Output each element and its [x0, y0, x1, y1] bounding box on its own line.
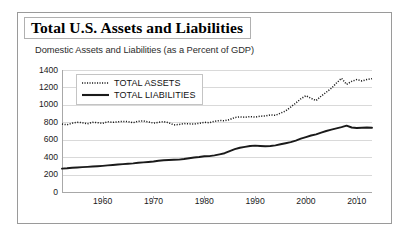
x-tick-mark: [204, 196, 205, 199]
series-line-total-liabilities: [62, 126, 372, 169]
y-tick-label: 1200: [39, 82, 58, 92]
x-tick-mark: [357, 196, 358, 199]
y-tick-label: 1400: [39, 65, 58, 75]
legend-item: TOTAL LIABILITIES: [82, 89, 196, 101]
y-axis-tick-labels: 0200400600800100012001400: [22, 70, 58, 192]
y-tick-label: 400: [44, 152, 58, 162]
y-tick-label: 800: [44, 117, 58, 127]
legend-item: TOTAL ASSETS: [82, 77, 196, 89]
y-tick-label: 200: [44, 169, 58, 179]
x-axis-tick-labels: 196019701980199020002010: [62, 196, 372, 210]
legend-label: TOTAL LIABILITIES: [114, 90, 196, 100]
x-tick-mark: [306, 196, 307, 199]
x-tick-mark: [255, 196, 256, 199]
x-tick-mark: [153, 196, 154, 199]
y-tick-label: 600: [44, 134, 58, 144]
chart-figure: Total U.S. Assets and Liabilities Domest…: [0, 0, 410, 239]
legend-swatch-solid: [82, 91, 109, 99]
chart-subtitle: Domestic Assets and Liabilities (as a Pe…: [35, 45, 254, 55]
x-axis-line: [62, 192, 372, 193]
chart-title-box: Total U.S. Assets and Liabilities: [24, 17, 251, 39]
x-tick-mark: [103, 196, 104, 199]
legend-label: TOTAL ASSETS: [114, 78, 181, 88]
legend-swatch-dotted: [82, 79, 109, 87]
y-tick-label: 0: [53, 187, 58, 197]
chart-legend: TOTAL ASSETSTOTAL LIABILITIES: [76, 74, 203, 105]
page-title: Total U.S. Assets and Liabilities: [31, 20, 243, 36]
y-tick-label: 1000: [39, 99, 58, 109]
